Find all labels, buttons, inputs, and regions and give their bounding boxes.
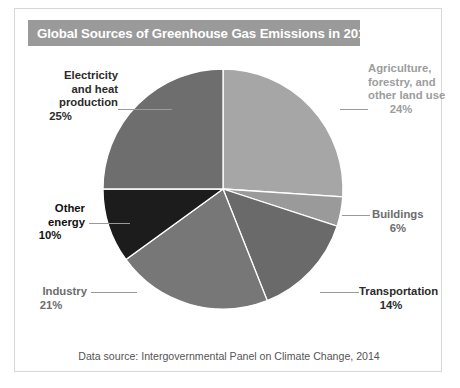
leader-line-buildings — [342, 215, 370, 216]
callout-industry-line1: Industry — [25, 285, 87, 299]
figure-frame: Global Sources of Greenhouse Gas Emissio… — [14, 8, 442, 372]
callout-buildings-line1: Buildings — [372, 208, 434, 222]
callout-agriculture-line2: forestry, and — [368, 76, 450, 90]
callout-buildings[interactable]: Buildings 6% — [372, 208, 434, 235]
pie-slice-agriculture[interactable] — [223, 69, 343, 197]
callout-buildings-pct: 6% — [372, 222, 434, 236]
callout-agriculture-line3: other land use — [368, 89, 450, 103]
leader-line-electricity — [118, 109, 172, 110]
callout-electricity-line3: production — [21, 96, 118, 110]
callout-other-energy-line1: Other — [23, 202, 85, 216]
callout-electricity[interactable]: Electricity and heat production 25% — [21, 69, 118, 123]
callout-electricity-pct: 25% — [21, 110, 118, 124]
callout-other-energy-pct: 10% — [23, 229, 85, 243]
data-source-note: Data source: Intergovernmental Panel on … — [15, 350, 443, 362]
callout-electricity-line2: and heat — [21, 83, 118, 97]
callout-agriculture-pct: 24% — [368, 103, 450, 117]
leader-line-industry — [91, 292, 137, 293]
pie-chart-area: Electricity and heat production 25% Agri… — [15, 9, 443, 373]
callout-other-energy-line2: energy — [23, 216, 85, 230]
pie-chart — [99, 65, 347, 313]
callout-electricity-line1: Electricity — [21, 69, 118, 83]
callout-transportation-pct: 14% — [359, 299, 445, 313]
leader-line-agriculture — [340, 109, 368, 110]
callout-agriculture[interactable]: Agriculture, forestry, and other land us… — [368, 62, 450, 116]
callout-industry[interactable]: Industry 21% — [25, 285, 87, 312]
callout-transportation-line1: Transportation — [359, 285, 445, 299]
callout-transportation[interactable]: Transportation 14% — [359, 285, 445, 312]
leader-line-other-energy — [89, 223, 130, 224]
callout-other-energy[interactable]: Other energy 10% — [23, 202, 85, 243]
pie-slice-electricity[interactable] — [103, 69, 223, 189]
callout-agriculture-line1: Agriculture, — [368, 62, 450, 76]
callout-industry-pct: 21% — [25, 299, 87, 313]
leader-line-transportation — [320, 292, 359, 293]
